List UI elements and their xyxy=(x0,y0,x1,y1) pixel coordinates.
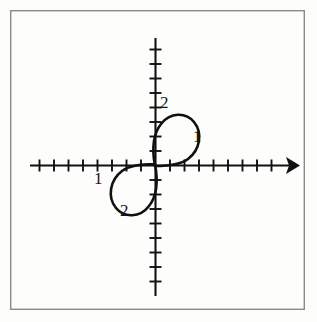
annotation-label-right: 1 xyxy=(193,128,202,145)
plot-canvas xyxy=(0,0,317,322)
annotation-label-bottom: 2 xyxy=(120,202,129,219)
lower-left-loop xyxy=(111,164,157,215)
annotation-label-top: 2 xyxy=(160,94,169,111)
polar-curve-figure: 2 1 1 2 xyxy=(0,0,317,322)
annotation-label-left: 1 xyxy=(94,170,103,187)
